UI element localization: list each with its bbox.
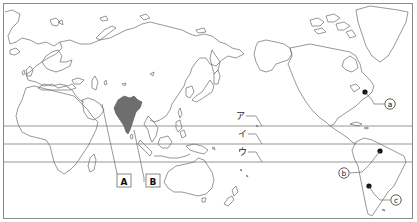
- east-asia-coast: [150, 58, 200, 122]
- indochina: [144, 116, 158, 142]
- sri-lanka: [130, 134, 133, 139]
- point-c: c: [366, 183, 401, 205]
- north-america-coast: [288, 44, 374, 126]
- iceland: [10, 48, 20, 55]
- svg-text:A: A: [121, 177, 128, 187]
- australia-coast: [164, 158, 214, 196]
- great-lakes: [350, 84, 360, 92]
- taiwan: [178, 108, 182, 118]
- svg-text:b: b: [342, 169, 347, 178]
- europe-coast: [5, 10, 84, 102]
- svg-text:ウ: ウ: [238, 147, 247, 157]
- central-america: [330, 126, 356, 144]
- sakhalin: [214, 70, 220, 84]
- canadian-archipelago: [310, 14, 356, 38]
- madagascar: [88, 154, 96, 172]
- point-a: a: [362, 89, 395, 109]
- tasmania: [202, 198, 206, 202]
- alaska-coast: [254, 40, 292, 72]
- japan: [192, 80, 214, 102]
- svg-text:a: a: [388, 100, 393, 109]
- leader-line-b: [134, 130, 144, 178]
- indonesia-java-islands: [154, 154, 190, 158]
- svg-text:c: c: [394, 196, 398, 205]
- korea-peninsula: [186, 86, 194, 98]
- greenland: [356, 6, 408, 62]
- central-asia-lakes: [104, 72, 154, 86]
- latitude-label-u: ウ: [238, 147, 262, 162]
- falkland-islands: [382, 209, 385, 211]
- latitude-label-a: ア: [236, 111, 262, 126]
- map-frame: [4, 4, 413, 219]
- leader-line-a: [102, 104, 118, 178]
- hudson-bay: [342, 56, 358, 72]
- new-zealand: [224, 186, 238, 206]
- world-map: A B ア イ ウ a b c: [0, 0, 417, 222]
- siberian-islands: [100, 14, 206, 33]
- svalbard: [50, 18, 63, 26]
- philippines: [176, 120, 186, 138]
- indonesia-sumatra: [138, 140, 152, 156]
- pacific-islands: [212, 125, 258, 177]
- new-guinea: [186, 144, 208, 154]
- indonesia-borneo: [158, 136, 172, 148]
- latitude-label-i: イ: [238, 129, 262, 144]
- point-b: b: [339, 148, 383, 178]
- box-label-a: A: [117, 174, 131, 187]
- india-shaded: [114, 96, 142, 134]
- svg-text:ア: ア: [236, 111, 245, 121]
- box-label-b: B: [146, 174, 160, 187]
- africa-coast: [16, 86, 98, 174]
- svg-text:B: B: [150, 177, 157, 187]
- russia-north-coast: [60, 22, 244, 66]
- svg-text:イ: イ: [238, 129, 247, 139]
- novaya-zemlya: [96, 26, 116, 40]
- caribbean-islands: [350, 122, 368, 129]
